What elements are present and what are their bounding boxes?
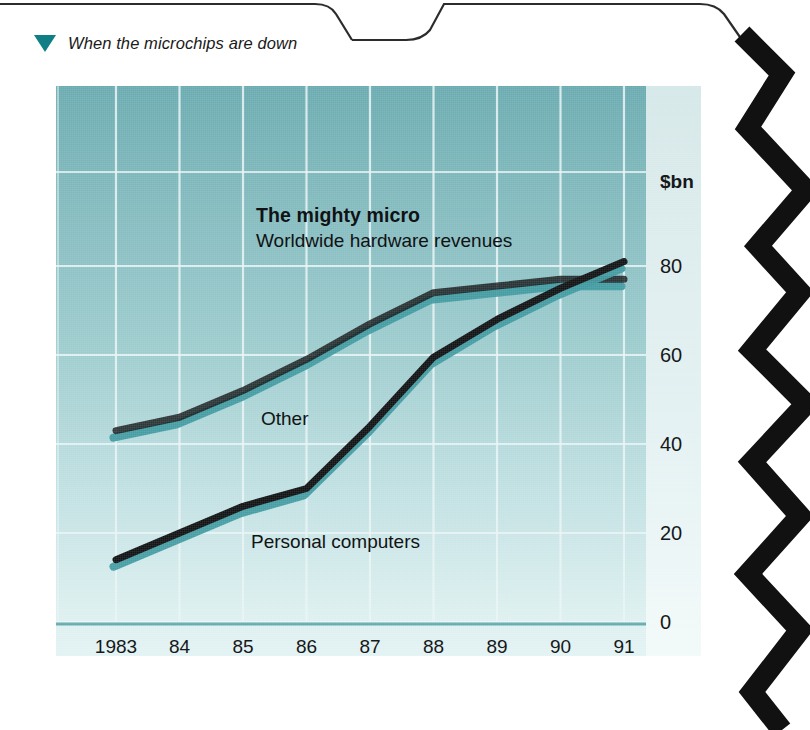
chart-series-group xyxy=(114,262,625,567)
chart-figure: 806040200$bn 19838485868788899091 The mi… xyxy=(28,60,710,680)
x-tick-label-1983: 1983 xyxy=(95,636,137,658)
x-tick-label-86: 86 xyxy=(296,636,317,658)
chart-panel: 806040200$bn 19838485868788899091 The mi… xyxy=(56,86,701,656)
y-axis-unit-label: $bn xyxy=(660,171,694,193)
chart-title: The mighty micro xyxy=(256,204,512,227)
x-tick-label-85: 85 xyxy=(232,636,253,658)
x-tick-label-87: 87 xyxy=(359,636,380,658)
chart-plot-area xyxy=(56,86,701,656)
x-tick-label-89: 89 xyxy=(486,636,507,658)
x-tick-label-91: 91 xyxy=(613,636,634,658)
figure-header-title: When the microchips are down xyxy=(68,34,297,53)
triangle-down-icon xyxy=(34,35,56,52)
x-tick-label-84: 84 xyxy=(169,636,190,658)
y-tick-label-0: 0 xyxy=(660,611,671,634)
y-tick-label-40: 40 xyxy=(660,433,682,456)
chart-title-block: The mighty micro Worldwide hardware reve… xyxy=(256,204,512,252)
y-tick-label-80: 80 xyxy=(660,255,682,278)
page-edge-zigzag xyxy=(742,34,806,730)
figure-header: When the microchips are down xyxy=(0,26,700,60)
series-label-personal-computers: Personal computers xyxy=(251,531,420,553)
series-label-other: Other xyxy=(261,408,309,430)
y-tick-label-60: 60 xyxy=(660,344,682,367)
x-tick-label-90: 90 xyxy=(550,636,571,658)
x-tick-label-88: 88 xyxy=(423,636,444,658)
y-tick-label-20: 20 xyxy=(660,522,682,545)
chart-subtitle: Worldwide hardware revenues xyxy=(256,230,512,252)
